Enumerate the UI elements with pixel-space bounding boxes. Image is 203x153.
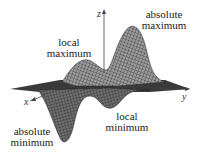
local-minimum-label: local minimum (103, 111, 151, 133)
absolute-maximum-label: absolute maximum (138, 9, 190, 31)
x-axis-arrow (30, 97, 36, 101)
z-axis-label: z (97, 8, 101, 19)
y-axis-label: y (182, 91, 186, 102)
z-axis-arrow (102, 9, 106, 14)
absolute-minimum-label: absolute minimum (6, 126, 58, 148)
local-maximum-label: local maximum (44, 37, 94, 59)
x-axis-label: x (24, 96, 28, 107)
surface-plot-figure: z y x absolute maximum local maximum loc… (0, 0, 203, 153)
